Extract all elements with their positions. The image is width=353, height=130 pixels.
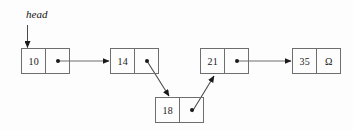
linked-list-diagram: head 10 14 21 35 Ω 18: [0, 0, 353, 130]
node-21-pointer-cell: [224, 49, 248, 73]
node-14-pointer-cell: [134, 49, 158, 73]
list-node-35: 35 Ω: [292, 48, 341, 74]
head-label: head: [26, 8, 47, 20]
node-18-data: 18: [156, 98, 179, 122]
node-21-data: 21: [201, 49, 224, 73]
list-node-18: 18: [155, 97, 204, 123]
list-node-14: 14: [110, 48, 159, 74]
node-10-pointer-cell: [45, 49, 69, 73]
node-35-data: 35: [293, 49, 316, 73]
list-node-21: 21: [200, 48, 249, 74]
pointer-dot-icon: [190, 108, 194, 112]
list-node-10: 10: [21, 48, 70, 74]
pointer-dot-icon: [235, 59, 239, 63]
node-18-pointer-cell: [179, 98, 203, 122]
pointer-dot-icon: [56, 59, 60, 63]
node-10-data: 10: [22, 49, 45, 73]
null-terminator-symbol: Ω: [316, 49, 340, 73]
pointer-dot-icon: [145, 59, 149, 63]
node-14-data: 14: [111, 49, 134, 73]
